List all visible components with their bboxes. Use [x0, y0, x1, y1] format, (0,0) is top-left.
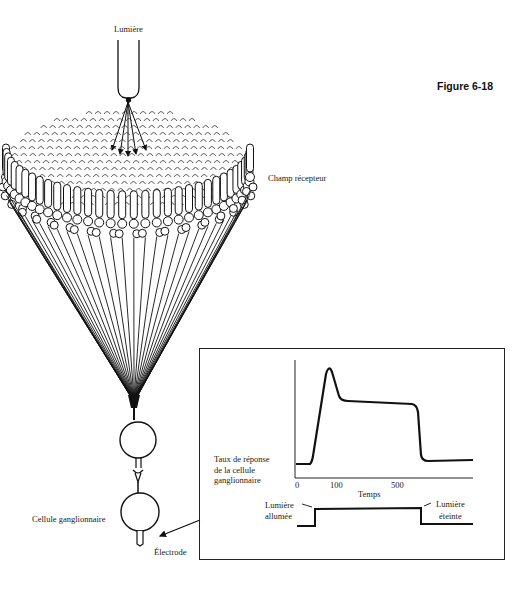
x-tick-100: 100 [330, 480, 343, 491]
x-tick-0: 0 [295, 480, 299, 491]
light-on-label: Lumière allumée [265, 500, 294, 522]
x-tick-500: 500 [391, 480, 404, 491]
y-axis-label: Taux de réponse de la cellule ganglionna… [214, 454, 270, 486]
response-curve [296, 368, 473, 464]
light-off-label: Lumière éteinte [436, 498, 465, 522]
x-axis-label: Temps [358, 489, 381, 500]
